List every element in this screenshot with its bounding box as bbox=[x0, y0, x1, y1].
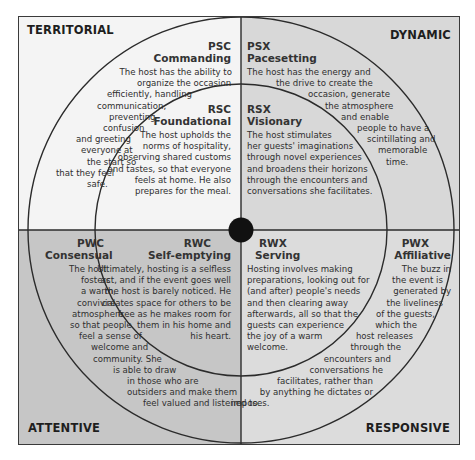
desc-line: facilitates, rather than bbox=[241, 376, 451, 387]
desc-line: feel valued and listened to. bbox=[27, 398, 242, 409]
style-rsx-visionary: RSX Visionary The host stimulates her gu… bbox=[247, 103, 407, 197]
desc-line: by anything he dictates or bbox=[241, 387, 460, 398]
desc-line: her guests' imaginations bbox=[247, 141, 407, 152]
style-rsc-foundational: RSC Foundational The host upholds the no… bbox=[71, 103, 231, 197]
style-title: Visionary bbox=[247, 115, 407, 128]
desc-line: the drive to create the bbox=[247, 78, 447, 89]
desc-line: encounters and bbox=[241, 354, 451, 365]
desc-line: norms of hospitality, bbox=[71, 141, 231, 152]
desc-line: The host has the ability to bbox=[31, 67, 232, 78]
desc-line: the host is barely noticed. He bbox=[61, 286, 231, 297]
desc-line: The buzz in bbox=[241, 264, 451, 275]
style-code: PSX bbox=[247, 40, 447, 52]
desc-line: which the bbox=[241, 320, 451, 331]
style-title: Affiliative bbox=[241, 249, 451, 262]
desc-line: the liveliness bbox=[241, 298, 451, 309]
style-code: PWX bbox=[241, 237, 451, 249]
desc-line: them in his home and bbox=[61, 320, 231, 331]
desc-line: community. She bbox=[27, 354, 242, 365]
style-code: RSX bbox=[247, 103, 407, 115]
desc-line: and broadens their horizons bbox=[247, 164, 407, 175]
style-title: Commanding bbox=[31, 52, 231, 65]
desc-line: free as he makes room for bbox=[61, 309, 231, 320]
desc-line: the event is bbox=[241, 275, 451, 286]
label-territorial: TERRITORIAL bbox=[27, 23, 114, 37]
style-pwx-affiliative: PWX Affiliative The buzz in the event is… bbox=[241, 237, 451, 410]
desc-line: welcome and bbox=[27, 342, 242, 353]
style-title: Foundational bbox=[71, 115, 231, 128]
desc-line: The host upholds the bbox=[71, 130, 231, 141]
desc-line: The host stimulates bbox=[247, 130, 407, 141]
style-code: PSC bbox=[31, 40, 231, 52]
desc-line: of the guests, bbox=[241, 309, 451, 320]
desc-line: observing shared customs bbox=[71, 152, 231, 163]
style-title: Self-emptying bbox=[61, 249, 231, 262]
label-attentive: ATTENTIVE bbox=[28, 421, 100, 435]
desc-line: is able to draw bbox=[27, 365, 242, 376]
desc-line: through novel experiences bbox=[247, 152, 407, 163]
desc-line: through the encounters and bbox=[247, 175, 407, 186]
desc-line: conversations she facilitates. bbox=[247, 186, 407, 197]
hosting-styles-diagram: TERRITORIAL DYNAMIC ATTENTIVE RESPONSIVE… bbox=[18, 16, 460, 445]
style-code: RSC bbox=[71, 103, 231, 115]
desc-line: efficiently, handling bbox=[31, 89, 231, 100]
desc-line: outsiders and make them bbox=[27, 387, 242, 398]
desc-line: act, and if the event goes well bbox=[61, 275, 231, 286]
desc-line: and tastes, so that everyone bbox=[71, 164, 231, 175]
desc-line: Ultimately, hosting is a selfless bbox=[61, 264, 231, 275]
desc-line: creates space for others to be bbox=[61, 298, 231, 309]
desc-line: organize the occasion bbox=[31, 78, 231, 89]
desc-line: his heart. bbox=[61, 331, 231, 342]
label-responsive: RESPONSIVE bbox=[366, 421, 450, 435]
desc-line: The host has the energy and bbox=[247, 67, 447, 78]
desc-line: imposes. bbox=[229, 398, 451, 409]
desc-line: prepares for the meal. bbox=[71, 186, 231, 197]
style-rwc-self-emptying: RWC Self-emptying Ultimately, hosting is… bbox=[61, 237, 231, 342]
style-title: Pacesetting bbox=[247, 52, 447, 65]
desc-line: occasion, generate bbox=[247, 89, 447, 100]
style-code: RWC bbox=[61, 237, 231, 249]
desc-line: through the bbox=[241, 342, 451, 353]
desc-line: in those who are bbox=[27, 376, 242, 387]
desc-line: feels at home. He also bbox=[71, 175, 231, 186]
desc-line: conversations he bbox=[241, 365, 451, 376]
desc-line: host releases bbox=[241, 331, 451, 342]
desc-line: generated by bbox=[241, 286, 451, 297]
